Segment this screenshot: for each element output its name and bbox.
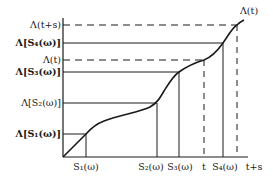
y-label-lambda-s4: Λ[S₄(ω)] xyxy=(15,37,61,48)
diagram-canvas: Λ(t+s) Λ[S₄(ω)] Λ(t) Λ[S₃(ω)] Λ[S₂(ω)] Λ… xyxy=(0,0,273,184)
y-label-lambda-t-plus-s: Λ(t+s) xyxy=(29,19,61,30)
x-label-s1: S₁(ω) xyxy=(73,161,98,172)
lambda-curve xyxy=(63,20,244,157)
x-label-t-plus-s: t+s xyxy=(246,161,263,172)
curve-label: Λ(t) xyxy=(239,5,258,16)
x-label-s2: S₂(ω) xyxy=(138,161,163,172)
x-label-t: t xyxy=(202,161,206,172)
y-label-lambda-t: Λ(t) xyxy=(42,54,61,65)
x-label-s3: S₃(ω) xyxy=(167,161,192,172)
y-label-lambda-s3: Λ[S₃(ω)] xyxy=(15,66,61,77)
lambda-curve-diagram: Λ(t+s) Λ[S₄(ω)] Λ(t) Λ[S₃(ω)] Λ[S₂(ω)] Λ… xyxy=(0,0,273,184)
x-label-s4: S₄(ω) xyxy=(212,161,237,172)
y-label-lambda-s1: Λ[S₁(ω)] xyxy=(15,128,61,139)
y-label-lambda-s2: Λ[S₂(ω)] xyxy=(20,97,61,108)
